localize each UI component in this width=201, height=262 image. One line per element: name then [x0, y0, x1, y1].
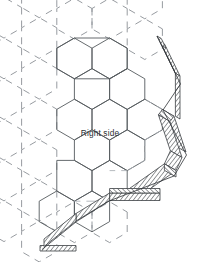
- hex-diagram-canvas: Right side: [0, 0, 201, 262]
- hexagon-grid-svg: Right side: [0, 0, 201, 262]
- right-side-label: Right side: [81, 128, 120, 138]
- rim-band-segment: [110, 193, 160, 201]
- rim-band-segment: [175, 73, 180, 119]
